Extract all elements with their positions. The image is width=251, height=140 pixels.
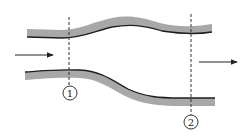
section-2-label: 2 bbox=[188, 117, 194, 128]
lower-pipe-wall bbox=[25, 70, 215, 106]
diagram-canvas: 1 2 bbox=[0, 0, 251, 140]
section-1-label: 1 bbox=[67, 88, 73, 99]
upper-pipe-wall bbox=[27, 17, 212, 38]
pipe-flow-diagram: 1 2 bbox=[0, 0, 251, 140]
